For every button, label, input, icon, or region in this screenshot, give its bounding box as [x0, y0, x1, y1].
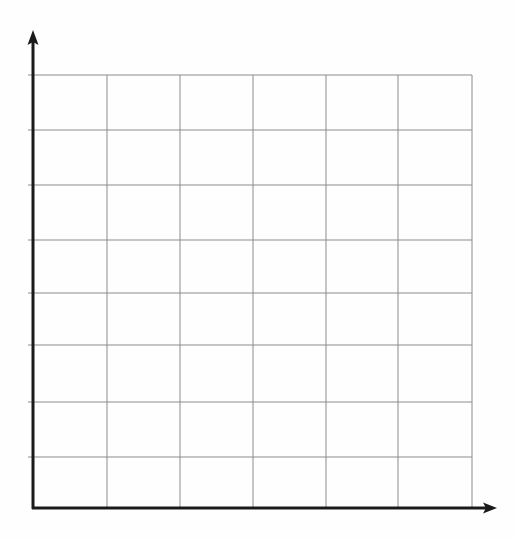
- figure-canvas: [0, 0, 515, 538]
- blank-coordinate-grid: [0, 0, 515, 538]
